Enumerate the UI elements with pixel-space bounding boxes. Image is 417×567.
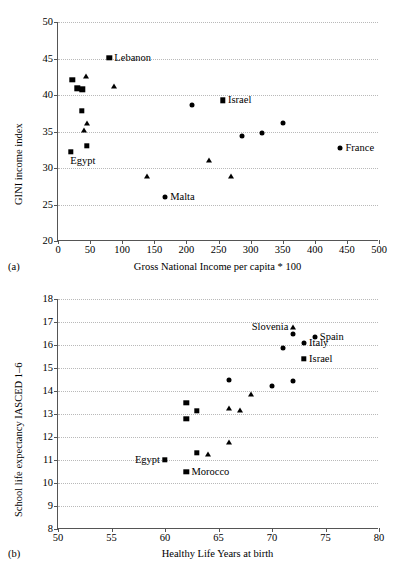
plot-area-a: 2025303540455005010015020025030035040045… (57, 22, 378, 241)
y-axis-title-b: School life expectancy IASCED 1–6 (14, 362, 25, 517)
y-tick-label: 45 (43, 53, 59, 64)
x-tick-label: 200 (179, 245, 195, 256)
data-point-circle (240, 133, 245, 138)
gridline (58, 437, 378, 438)
data-point-circle (280, 346, 285, 351)
data-point-square (194, 408, 199, 413)
data-point-triangle (81, 127, 87, 132)
gridline (58, 368, 378, 369)
y-tick-label: 13 (43, 409, 59, 420)
gridline (58, 168, 378, 169)
data-point-circle (291, 378, 296, 383)
y-tick-label: 14 (43, 386, 59, 397)
point-label: Malta (170, 192, 195, 203)
x-tick-label: 50 (85, 245, 96, 256)
y-tick-label: 35 (43, 126, 59, 137)
y-tick-label: 18 (43, 294, 59, 305)
data-point-triangle (84, 120, 90, 125)
data-point-square (301, 356, 306, 361)
x-tick-label: 450 (339, 245, 355, 256)
point-label: Israel (228, 95, 251, 106)
y-tick-label: 40 (43, 90, 59, 101)
data-point-circle (270, 384, 275, 389)
x-tick-label: 250 (211, 245, 227, 256)
y-tick-label: 9 (48, 501, 58, 512)
data-point-triangle (206, 157, 212, 162)
x-tick-label: 0 (55, 245, 60, 256)
data-point-triangle (144, 173, 150, 178)
y-tick-label: 50 (43, 17, 59, 28)
data-point-triangle (248, 391, 254, 396)
x-tick-label: 55 (106, 533, 117, 544)
plot-area-b: 8910111213141516171850556065707580Israel… (57, 299, 378, 529)
y-axis-title-a: GINI income index (14, 123, 25, 205)
data-point-triangle (226, 405, 232, 410)
data-point-circle (163, 195, 168, 200)
gridline (58, 483, 378, 484)
gridline (58, 460, 378, 461)
data-point-square (80, 86, 85, 91)
x-tick-label: 80 (374, 533, 385, 544)
data-point-triangle (111, 84, 117, 89)
x-tick-label: 400 (307, 245, 323, 256)
x-tick-label: 75 (320, 533, 331, 544)
point-label: Morocco (191, 466, 229, 477)
data-point-square (184, 400, 189, 405)
gridline (58, 299, 378, 300)
point-label: Italy (309, 337, 328, 348)
point-label: Lebanon (114, 53, 151, 64)
x-tick-label: 350 (275, 245, 291, 256)
data-point-square (184, 469, 189, 474)
data-point-square (162, 457, 167, 462)
data-point-triangle (228, 173, 234, 178)
x-axis-title-b: Healthy Life Years at birth (57, 549, 378, 560)
x-tick-label: 65 (213, 533, 224, 544)
gridline (58, 322, 378, 323)
data-point-circle (227, 377, 232, 382)
chart-panel-a: 2025303540455005010015020025030035040045… (0, 0, 417, 290)
x-tick-label: 70 (267, 533, 278, 544)
gridline (58, 391, 378, 392)
x-tick-label: 60 (160, 533, 171, 544)
data-point-triangle (290, 325, 296, 330)
chart-panel-b: 8910111213141516171850556065707580Israel… (0, 285, 417, 567)
panel-label-a: (a) (8, 262, 20, 273)
y-tick-label: 15 (43, 363, 59, 374)
x-tick-label: 300 (243, 245, 259, 256)
y-tick-label: 17 (43, 317, 59, 328)
data-point-triangle (205, 451, 211, 456)
point-label: Egypt (70, 156, 95, 167)
gridline (58, 414, 378, 415)
y-tick-label: 10 (43, 478, 59, 489)
y-tick-label: 16 (43, 340, 59, 351)
data-point-square (84, 143, 89, 148)
data-point-triangle (226, 440, 232, 445)
data-point-square (107, 55, 112, 60)
x-axis-title-a: Gross National Income per capita * 100 (57, 262, 378, 273)
data-point-circle (281, 121, 286, 126)
gridline (58, 506, 378, 507)
gridline (58, 132, 378, 133)
data-point-square (68, 149, 73, 154)
data-point-triangle (237, 408, 243, 413)
data-point-square (220, 97, 225, 102)
gridline (58, 345, 378, 346)
x-tick-label: 150 (146, 245, 162, 256)
data-point-square (184, 416, 189, 421)
x-tick-label: 100 (114, 245, 130, 256)
y-tick-label: 30 (43, 163, 59, 174)
data-point-circle (302, 340, 307, 345)
x-tick-label: 500 (371, 245, 387, 256)
data-point-square (69, 77, 74, 82)
point-label: Israel (309, 354, 332, 365)
y-tick-label: 25 (43, 199, 59, 210)
panel-label-b: (b) (8, 549, 20, 560)
point-label: France (345, 142, 374, 153)
point-label: Slovenia (252, 321, 289, 332)
gridline (58, 95, 378, 96)
data-point-square (194, 450, 199, 455)
data-point-circle (190, 103, 195, 108)
data-point-circle (260, 130, 265, 135)
y-tick-label: 12 (43, 432, 59, 443)
data-point-triangle (83, 73, 89, 78)
